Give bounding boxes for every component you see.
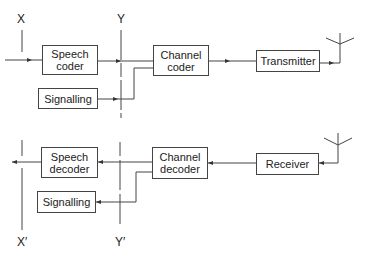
channel-coder-block: Channel coder (153, 45, 209, 76)
signalling-rx-block: Signalling (37, 191, 96, 213)
y-prime-label: Y′ (115, 235, 125, 249)
rx-antenna-arm-right (338, 138, 352, 145)
speech-decoder-block: Speech decoder (41, 147, 98, 178)
transmitter-block: Transmitter (256, 50, 320, 72)
tx-antenna-arm-right (340, 38, 354, 44)
x-label: X (17, 12, 25, 26)
y-label: Y (117, 12, 125, 26)
channel-decoder-block: Channel decoder (152, 147, 208, 179)
receiver-block: Receiver (256, 153, 319, 175)
connection-lines (0, 0, 365, 262)
x-prime-label: X′ (17, 235, 27, 249)
signalling-tx-block: Signalling (38, 88, 98, 109)
speech-coder-block: Speech coder (42, 45, 98, 75)
tx-antenna-arm-left (326, 38, 340, 44)
rx-antenna-arm-left (324, 138, 338, 145)
